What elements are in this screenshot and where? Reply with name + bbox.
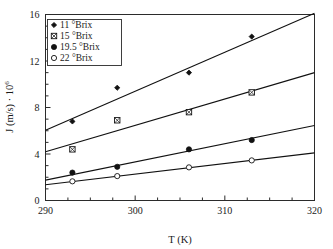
y-tick-label: 16 [30,9,40,20]
data-point [115,164,120,169]
data-point [249,34,254,39]
y-tick-label: 12 [30,56,40,67]
x-axis-title: T (K) [168,234,192,246]
legend-item-label: 19.5 °Brix [60,42,100,52]
data-point [115,118,120,123]
data-point [186,70,191,75]
data-point [249,137,254,142]
legend-item-label: 22 °Brix [60,53,93,63]
legend: 11 °Brix15 °Brix19.5 °Brix22 °Brix [48,20,122,66]
data-point [115,173,120,178]
data-point [70,147,75,152]
legend-marker-icon [51,44,56,49]
legend-marker-icon [51,55,56,60]
data-point [186,147,191,152]
x-tick-label: 320 [307,205,322,216]
series-points [70,90,255,152]
y-tick-label: 4 [35,149,40,160]
legend-item-label: 15 °Brix [60,31,93,41]
chart-figure: 290300310320 0481216 T (K) J (m/s) · 106… [0,0,333,249]
x-tick-label: 300 [128,205,143,216]
scatter-chart: 290300310320 0481216 T (K) J (m/s) · 106… [0,0,333,249]
x-tick-label: 290 [38,205,53,216]
x-axis-tick-labels: 290300310320 [38,205,322,216]
data-point [70,170,75,175]
data-point [70,179,75,184]
y-axis-tick-labels: 0481216 [30,9,40,206]
data-point [249,158,254,163]
y-axis-title-exponent: 6 [3,81,11,85]
y-axis-title-text: J (m/s) · 10 [4,85,16,133]
data-point [249,90,254,95]
trend-line [46,153,315,185]
y-tick-label: 8 [35,102,40,113]
y-tick-label: 0 [35,195,40,206]
legend-item-label: 11 °Brix [60,20,92,30]
svg-text:J (m/s) · 106: J (m/s) · 106 [3,81,16,133]
y-axis-title: J (m/s) · 106 [3,81,16,133]
legend-marker-icon [51,33,56,38]
data-point [186,165,191,170]
trend-line [46,126,315,181]
data-point [186,109,191,114]
data-point [115,85,120,90]
x-tick-label: 310 [217,205,232,216]
